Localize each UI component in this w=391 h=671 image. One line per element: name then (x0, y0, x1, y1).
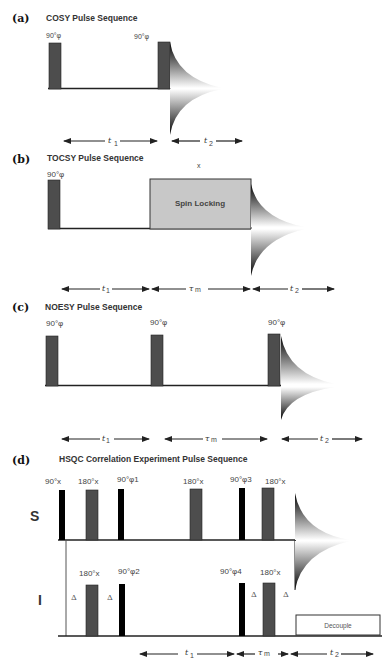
delay-label: Δ (71, 593, 77, 602)
pulse-label: 90°φ (47, 170, 64, 179)
pulse-label: 90°φ (46, 32, 62, 40)
svg-text:t: t (108, 136, 112, 145)
channel-label-i: I (38, 592, 42, 608)
panel-c-noesy: (c) NOESY Pulse Sequence 90°φ 90°φ 90°φ … (12, 301, 362, 444)
svg-text:1: 1 (114, 140, 118, 147)
svg-text:t: t (330, 648, 334, 657)
interval-tau-m: τ m (165, 434, 267, 443)
pulse-label: 180°x (79, 569, 100, 578)
spinlock-phase-label: x (197, 162, 201, 169)
pulse-90 (119, 584, 125, 636)
pulse-label: 180°x (265, 477, 286, 486)
pulse-label: 90°φ (134, 33, 150, 41)
panel-a-cosy: (a) COSY Pulse Sequence 90°φ 90°φ t 1 t … (12, 12, 242, 147)
svg-text:2: 2 (325, 437, 329, 444)
pulse-90 (46, 336, 58, 386)
fid-signal-icon (295, 493, 350, 590)
pulse-90 (48, 180, 60, 229)
panel-b-tocsy: (b) TOCSY Pulse Sequence 90°φ x Spin Loc… (12, 153, 334, 294)
panel-label-b: (b) (12, 153, 30, 166)
decouple-label: Decouple (324, 622, 352, 630)
pulse-label: 90°φ (46, 319, 63, 328)
pulse-180 (86, 585, 98, 636)
svg-text:1: 1 (190, 652, 194, 659)
pulse-label: 90°φ (268, 318, 285, 327)
svg-text:m: m (211, 436, 217, 443)
interval-t1: t 1 (62, 284, 149, 294)
pulse-label: 90°φ3 (230, 475, 252, 484)
delay-label: Δ (283, 590, 289, 599)
panel-label-a: (a) (12, 12, 30, 25)
interval-t1: t 1 (64, 136, 157, 147)
svg-text:t: t (185, 648, 189, 657)
pulse-180 (263, 583, 275, 636)
panel-title-c: NOESY Pulse Sequence (45, 302, 142, 312)
panel-label-d: (d) (12, 454, 30, 467)
pulse-label: 90°φ4 (220, 567, 242, 576)
pulse-180 (262, 488, 274, 540)
svg-text:1: 1 (106, 437, 110, 444)
svg-text:m: m (195, 286, 201, 293)
pulse-label: 180°x (78, 477, 99, 486)
pulse-90 (239, 488, 245, 540)
pulse-label: 180°x (183, 477, 204, 486)
svg-text:2: 2 (209, 140, 213, 147)
delay-label: Δ (251, 590, 257, 599)
pulse-sequence-figure: (a) COSY Pulse Sequence 90°φ 90°φ t 1 t … (0, 0, 391, 671)
pulse-90 (151, 335, 163, 386)
pulse-label: 90°φ2 (118, 567, 140, 576)
interval-tau-m: τ m (152, 284, 250, 293)
svg-text:τ: τ (205, 434, 210, 443)
svg-text:τ: τ (258, 648, 263, 657)
fid-signal-icon (170, 42, 222, 135)
panel-label-c: (c) (12, 301, 29, 314)
svg-text:1: 1 (106, 287, 110, 294)
svg-text:t: t (204, 136, 208, 145)
fid-signal-icon (251, 184, 305, 276)
pulse-90 (239, 583, 245, 636)
pulse-label: 90°φ (150, 318, 167, 327)
svg-text:t: t (320, 434, 324, 443)
fid-signal-icon (281, 336, 335, 420)
pulse-90 (118, 489, 124, 540)
spin-locking-label: Spin Locking (175, 199, 225, 208)
pulse-label: 180°x (260, 568, 281, 577)
interval-t2: t 2 (253, 284, 334, 294)
svg-text:2: 2 (335, 651, 339, 658)
pulse-90 (158, 42, 170, 89)
pulse-label: 90°x (45, 477, 61, 486)
panel-title-a: COSY Pulse Sequence (46, 13, 138, 23)
panel-title-b: TOCSY Pulse Sequence (47, 153, 144, 163)
panel-title-d: HSQC Correlation Experiment Pulse Sequen… (59, 454, 248, 464)
panel-d-hsqc: (d) HSQC Correlation Experiment Pulse Se… (12, 454, 382, 659)
pulse-180 (190, 489, 202, 540)
pulse-180 (86, 490, 98, 540)
pulse-label: 90°φ1 (117, 475, 139, 484)
channel-label-s: S (30, 508, 39, 524)
interval-t1: t 1 (140, 648, 234, 659)
svg-text:2: 2 (295, 287, 299, 294)
svg-text:τ: τ (189, 284, 194, 293)
interval-t2: t 2 (172, 136, 242, 147)
pulse-90 (268, 334, 280, 386)
pulse-90 (59, 490, 65, 540)
svg-text:t: t (290, 284, 294, 293)
interval-t2: t 2 (291, 648, 373, 658)
pulse-90 (49, 43, 61, 89)
interval-t1: t 1 (62, 434, 149, 444)
svg-text:m: m (264, 650, 270, 657)
interval-tau-m: τ m (237, 648, 288, 657)
interval-t2: t 2 (282, 434, 362, 444)
delay-label: Δ (107, 593, 113, 602)
